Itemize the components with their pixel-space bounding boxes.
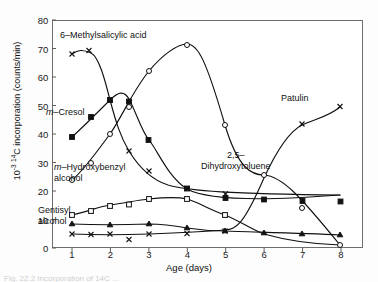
figure-root: 80 70 60 50 40 30 20 10 0 1 2 3 4 5 6 7 … xyxy=(0,0,378,282)
series-markers xyxy=(69,43,343,248)
series-label-hbz-italic: m xyxy=(54,162,62,172)
tick-marks xyxy=(52,20,341,252)
series-layer xyxy=(0,0,378,282)
series-label-hbz-rest: –Hydroxybenzyl alcohol xyxy=(54,162,126,183)
series-label-2-5-dihydroxytoluene: 2,5– Dihydroxytoluene xyxy=(201,150,271,171)
markers-2-5-dihydroxytoluene xyxy=(70,197,228,218)
series-label-m-cresol: m–Cresol xyxy=(46,107,85,118)
series-path-m-hydroxybenzyl-alcohol xyxy=(72,44,340,245)
series-label-m-hydroxybenzyl-alcohol: m–Hydroxybenzyl alcohol xyxy=(54,162,126,183)
series-label-6-methylsalicylic-acid: 6–Methylsalicylic acid xyxy=(60,30,147,41)
series-label-m-cresol-italic: m xyxy=(46,107,54,117)
figure-caption-clipped: Fig. 22.2 Incorporation of 14C ... xyxy=(4,274,119,282)
markers-m-hydroxybenzyl-alcohol xyxy=(70,43,343,248)
series-label-patulin: Patulin xyxy=(281,93,309,104)
series-label-m-cresol-rest: –Cresol xyxy=(54,107,85,117)
series-label-gentisyl-alcohol: Gentisyl alcohol xyxy=(38,205,71,226)
